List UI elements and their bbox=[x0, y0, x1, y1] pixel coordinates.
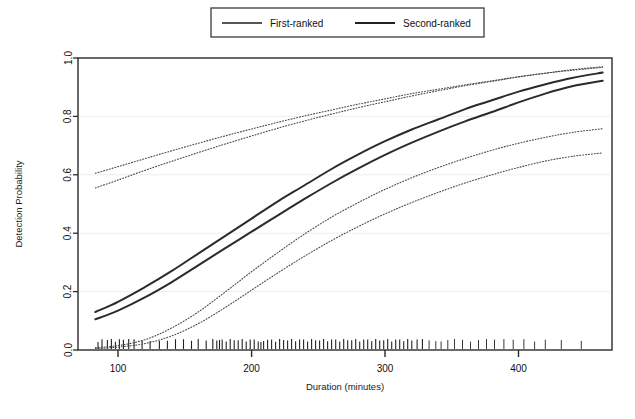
detection-probability-chart: 0.00.20.40.60.81.0 100200300400 Duration… bbox=[0, 0, 635, 419]
y-tick-label: 0.4 bbox=[63, 226, 74, 240]
x-tick-label: 300 bbox=[377, 363, 394, 374]
y-tick-label: 0.8 bbox=[63, 109, 74, 123]
curve-second-ranked-upper-band bbox=[95, 67, 602, 188]
y-axis-ticks: 0.00.20.40.60.81.0 bbox=[63, 51, 79, 357]
curve-group bbox=[95, 67, 602, 349]
legend: First-ranked Second-ranked bbox=[211, 8, 484, 37]
curve-first-ranked-lower-band bbox=[95, 129, 602, 348]
curve-first-ranked-upper-band bbox=[95, 67, 602, 173]
y-tick-label: 1.0 bbox=[63, 51, 74, 65]
plot-frame bbox=[78, 58, 612, 350]
y-tick-label: 0.0 bbox=[63, 343, 74, 357]
figure-container: 0.00.20.40.60.81.0 100200300400 Duration… bbox=[0, 0, 635, 419]
data-observations-rug bbox=[98, 339, 581, 349]
x-tick-label: 400 bbox=[510, 363, 527, 374]
y-tick-label: 0.2 bbox=[63, 284, 74, 298]
y-tick-label: 0.6 bbox=[63, 167, 74, 181]
x-tick-label: 100 bbox=[110, 363, 127, 374]
x-tick-label: 200 bbox=[243, 363, 260, 374]
curve-second-ranked-lower-band bbox=[95, 153, 602, 349]
legend-label-second-ranked: Second-ranked bbox=[403, 18, 471, 29]
curve-first-ranked bbox=[95, 73, 602, 312]
x-axis-title: Duration (minutes) bbox=[306, 381, 384, 392]
gridlines bbox=[80, 116, 610, 291]
x-axis-ticks: 100200300400 bbox=[110, 350, 528, 374]
legend-label-first-ranked: First-ranked bbox=[270, 18, 323, 29]
y-axis-title: Detection Probability bbox=[13, 160, 24, 247]
